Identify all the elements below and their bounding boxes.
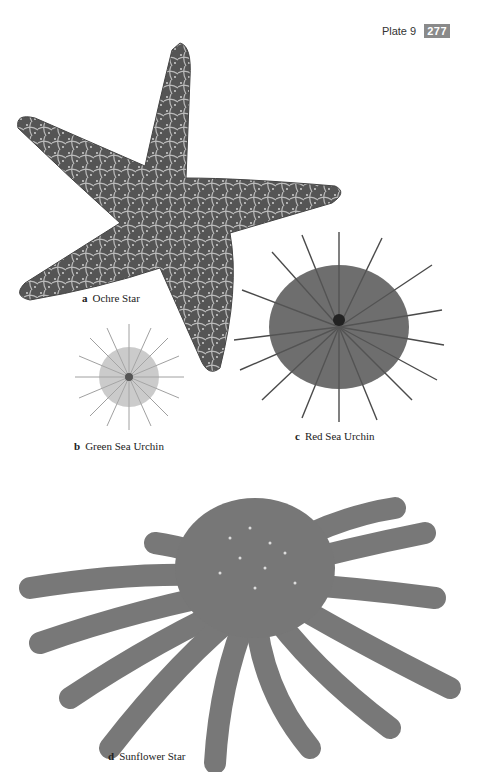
caption-letter: b — [74, 440, 80, 452]
caption-text: Ochre Star — [93, 292, 140, 304]
caption-text: Red Sea Urchin — [305, 430, 375, 442]
caption-text: Green Sea Urchin — [85, 440, 164, 452]
caption-green-sea-urchin: bGreen Sea Urchin — [74, 440, 164, 452]
green-sea-urchin-illustration — [72, 322, 187, 432]
caption-ochre-star: aOchre Star — [82, 292, 140, 304]
sunflower-star-illustration — [10, 488, 470, 772]
page-header: Plate 9 277 — [382, 24, 450, 38]
caption-text: Sunflower Star — [119, 750, 185, 762]
caption-sunflower-star: dSunflower Star — [108, 750, 185, 762]
caption-letter: a — [82, 292, 88, 304]
page-number-badge: 277 — [424, 24, 450, 38]
red-sea-urchin-illustration — [232, 230, 447, 425]
caption-letter: d — [108, 750, 114, 762]
plate-label: Plate 9 — [382, 25, 416, 37]
caption-red-sea-urchin: cRed Sea Urchin — [295, 430, 375, 442]
caption-letter: c — [295, 430, 300, 442]
